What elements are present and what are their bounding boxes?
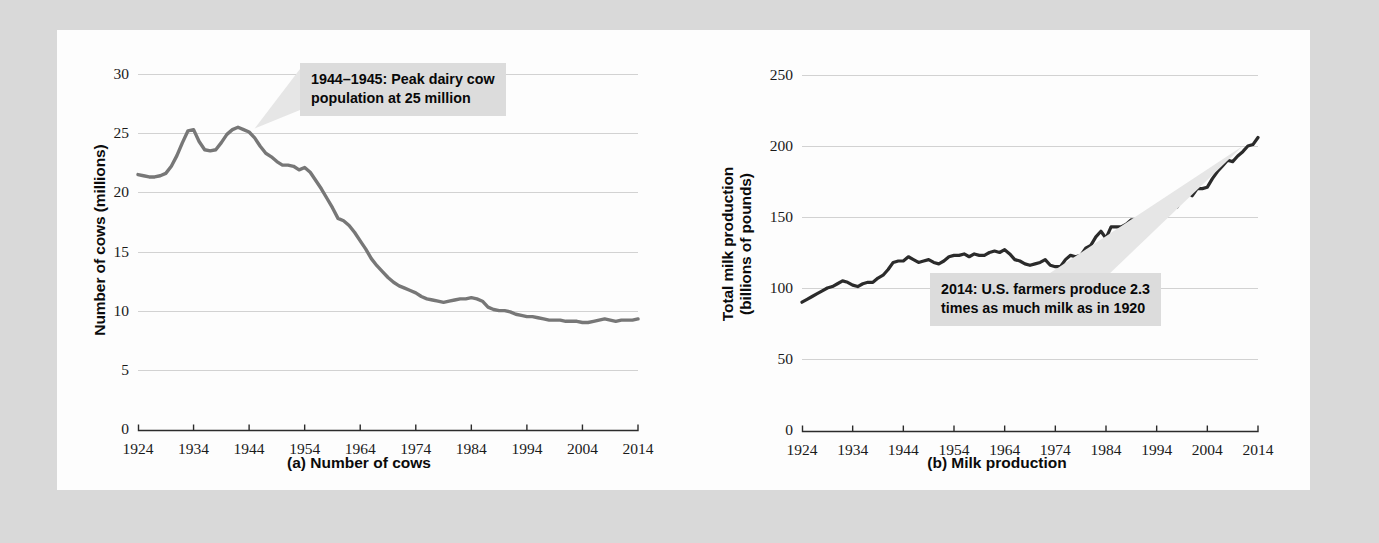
y-tick-label: 200	[770, 137, 793, 155]
y-tick-label: 20	[114, 183, 130, 201]
annotation-line: 1944–1945: Peak dairy cow	[311, 70, 495, 89]
y-tick-label: 30	[114, 65, 130, 83]
y-tick-label: 10	[114, 302, 130, 320]
figure-panel: Number of cows (millions) 05101520253019…	[57, 30, 1310, 490]
chart-b-caption: (b) Milk production	[707, 454, 1287, 472]
y-tick-label: 250	[770, 66, 793, 84]
data-series-line	[138, 74, 638, 429]
chart-a-plot-area: 0510152025301924193419441954196419741984…	[138, 74, 638, 429]
y-tick-label: 100	[770, 279, 793, 297]
chart-b-y-axis-title: Total milk production(billions of pounds…	[719, 70, 755, 418]
chart-a-number-of-cows: Number of cows (millions) 05101520253019…	[57, 30, 687, 490]
annotation-line: times as much milk as in 1920	[941, 299, 1150, 318]
y-tick-label: 150	[770, 208, 793, 226]
y-tick-label: 0	[121, 420, 129, 438]
chart-b-plot-area: 0501001502002501924193419441954196419741…	[802, 75, 1258, 430]
chart-a-y-axis-title: Number of cows (millions)	[91, 75, 109, 405]
chart-a-caption: (a) Number of cows	[79, 454, 639, 472]
chart-b-milk-production: Total milk production(billions of pounds…	[687, 30, 1310, 490]
annotation-line: population at 25 million	[311, 89, 495, 108]
y-tick-label: 0	[785, 421, 793, 439]
annotation-line: 2014: U.S. farmers produce 2.3	[941, 280, 1150, 299]
annotation-callout: 2014: U.S. farmers produce 2.3times as m…	[930, 273, 1161, 326]
y-tick-label: 25	[114, 124, 130, 142]
data-series-line	[802, 75, 1258, 430]
y-tick-label: 50	[778, 350, 794, 368]
annotation-callout: 1944–1945: Peak dairy cowpopulation at 2…	[300, 63, 506, 116]
y-tick-label: 15	[114, 243, 130, 261]
y-tick-label: 5	[121, 361, 129, 379]
